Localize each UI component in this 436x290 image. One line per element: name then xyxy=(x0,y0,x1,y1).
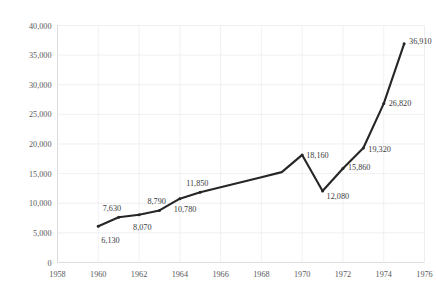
data-point-label: 12,080 xyxy=(327,192,350,201)
data-point-marker xyxy=(301,153,304,156)
data-point-label: 8,790 xyxy=(147,197,165,206)
data-point-marker xyxy=(158,209,161,212)
x-axis-tick-label: 1970 xyxy=(294,270,310,279)
y-axis-tick-label: 30,000 xyxy=(29,81,52,90)
data-point-label: 7,630 xyxy=(103,204,121,213)
y-axis-tick-label: 0 xyxy=(47,259,51,268)
data-point-marker xyxy=(403,42,406,45)
data-point-label: 15,860 xyxy=(348,163,371,172)
y-axis-tick-label: 15,000 xyxy=(29,170,52,179)
chart-canvas: 05,00010,00015,00020,00025,00030,00035,0… xyxy=(0,0,436,290)
x-axis-tick-label: 1960 xyxy=(90,270,106,279)
y-axis-tick-label: 40,000 xyxy=(29,22,52,31)
data-point-label: 6,130 xyxy=(101,236,119,245)
data-point-label: 11,850 xyxy=(186,179,208,188)
y-axis-tick-label: 5,000 xyxy=(33,229,51,238)
data-point-marker xyxy=(138,213,141,216)
y-axis-tick-label: 10,000 xyxy=(29,199,52,208)
data-point-marker xyxy=(321,189,324,192)
data-point-label: 18,160 xyxy=(306,151,329,160)
data-point-label: 26,820 xyxy=(389,99,412,108)
x-axis-tick-label: 1958 xyxy=(49,270,65,279)
y-axis-tick-label: 25,000 xyxy=(29,110,52,119)
data-point-marker xyxy=(97,225,100,228)
data-point-label: 10,780 xyxy=(174,205,197,214)
x-axis-tick-label: 1976 xyxy=(416,270,432,279)
x-axis-tick-label: 1974 xyxy=(376,270,392,279)
y-axis-tick-label: 20,000 xyxy=(29,140,52,149)
data-point-marker xyxy=(117,216,120,219)
y-axis-tick-labels: 05,00010,00015,00020,00025,00030,00035,0… xyxy=(29,22,52,268)
data-point-marker xyxy=(341,167,344,170)
data-point-marker xyxy=(382,102,385,105)
x-axis-tick-label: 1968 xyxy=(253,270,269,279)
line-chart: 05,00010,00015,00020,00025,00030,00035,0… xyxy=(0,0,436,290)
x-axis-tick-label: 1964 xyxy=(172,270,188,279)
data-point-marker xyxy=(362,147,365,150)
x-axis-tick-label: 1972 xyxy=(335,270,351,279)
data-point-label: 36,910 xyxy=(409,37,432,46)
data-point-label: 8,070 xyxy=(133,223,151,232)
data-point-label: 19,320 xyxy=(368,145,391,154)
data-point-marker xyxy=(178,197,181,200)
x-axis-tick-label: 1962 xyxy=(131,270,147,279)
data-point-marker xyxy=(199,191,202,194)
x-axis-tick-label: 1966 xyxy=(212,270,228,279)
y-axis-tick-label: 35,000 xyxy=(29,51,52,60)
